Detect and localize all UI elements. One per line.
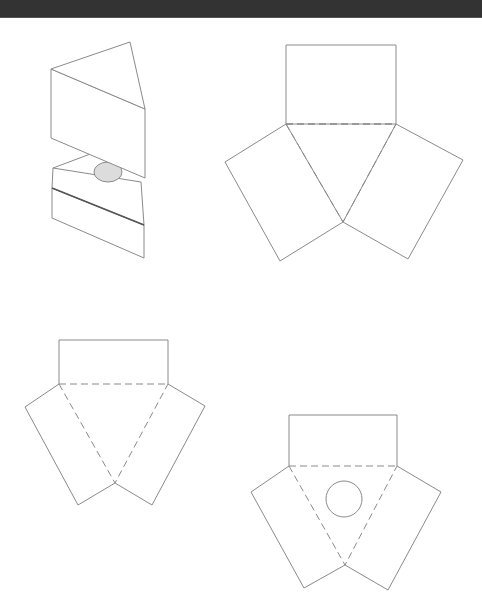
- net-tall-rect: [286, 45, 396, 124]
- net-hole-rect: [289, 415, 397, 466]
- net-short-rect: [59, 340, 168, 384]
- net-short-left-flap: [25, 384, 115, 505]
- diagram-canvas: [0, 0, 482, 608]
- net-tall-figure: [225, 45, 463, 261]
- net-short-fold-triangle: [59, 384, 168, 483]
- net-short-figure: [25, 340, 205, 505]
- base-top-back-edge: [53, 153, 93, 168]
- net-hole-figure: [251, 415, 441, 590]
- net-hole-circle: [326, 481, 362, 517]
- net-hole-right-flap: [345, 466, 441, 590]
- net-tall-right-flap: [343, 124, 463, 259]
- net-short-right-flap: [115, 384, 205, 505]
- assembled-prism-figure: [51, 42, 145, 258]
- net-hole-left-flap: [251, 466, 345, 588]
- net-tall-fold-triangle: [286, 124, 396, 222]
